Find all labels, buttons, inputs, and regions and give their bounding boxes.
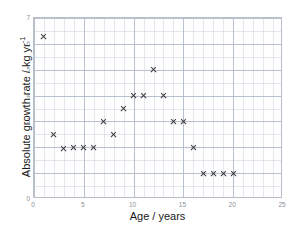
data-point [80, 144, 87, 151]
plot-area [33, 17, 282, 198]
x-tick-label: 10 [129, 201, 136, 208]
major-gridlines [34, 18, 281, 197]
data-point [200, 170, 207, 177]
x-tick-label: 20 [229, 201, 236, 208]
data-point [210, 170, 217, 177]
x-axis-label: Age / years [33, 210, 282, 222]
data-point [60, 145, 67, 152]
data-point [220, 170, 227, 177]
data-point [180, 118, 187, 125]
data-point [160, 92, 167, 99]
data-point [150, 66, 157, 73]
data-point [130, 92, 137, 99]
data-point [40, 33, 47, 40]
data-point [100, 118, 107, 125]
data-point [190, 144, 197, 151]
chart-title [0, 0, 289, 1]
x-tick-label: 25 [278, 201, 285, 208]
data-point [50, 131, 57, 138]
y-axis-label-exponent: -1 [18, 37, 27, 44]
data-point [140, 92, 147, 99]
y-axis-label-text: Absolute growth rate / kg yr [20, 43, 32, 177]
x-tick-label: 15 [179, 201, 186, 208]
data-point [90, 144, 97, 151]
data-point [70, 144, 77, 151]
data-point [230, 170, 237, 177]
scatter-chart: 0510152025 01234567 Age / years Absolute… [0, 0, 289, 233]
data-point [120, 105, 127, 112]
data-point [170, 118, 177, 125]
data-point [110, 131, 117, 138]
x-tick-label: 5 [81, 201, 85, 208]
y-axis-label: Absolute growth rate / kg yr-1 [18, 7, 32, 207]
